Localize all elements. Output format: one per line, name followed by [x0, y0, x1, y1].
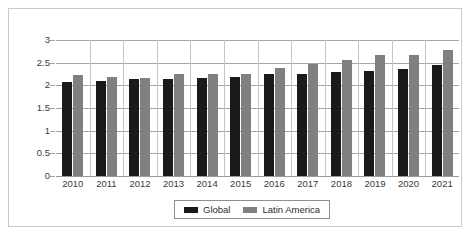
bar-latin-america-2015[interactable]: [241, 74, 251, 176]
x-tick-label-2012: 2012: [123, 179, 157, 189]
bar-global-2019[interactable]: [364, 71, 374, 176]
bar-group: [425, 40, 459, 176]
x-tick-label-2016: 2016: [257, 179, 291, 189]
y-axis-tick-labels: 00.511.522.53: [14, 40, 50, 176]
bar-latin-america-2018[interactable]: [342, 60, 352, 177]
bar-latin-america-2021[interactable]: [443, 50, 453, 176]
legend-entry-global[interactable]: Global: [184, 205, 230, 215]
gridline-0: [56, 176, 459, 177]
bar-latin-america-2014[interactable]: [208, 74, 218, 176]
bar-global-2018[interactable]: [331, 72, 341, 176]
y-tick-mark: [50, 40, 55, 41]
bar-global-2017[interactable]: [297, 74, 307, 176]
x-tick-label-2020: 2020: [392, 179, 426, 189]
bar-group: [123, 40, 157, 176]
y-tick-label: 1.5: [16, 103, 50, 113]
bar-global-2013[interactable]: [163, 79, 173, 176]
chart-figure: 00.511.522.53 20102011201220132014201520…: [0, 0, 471, 236]
bar-group: [157, 40, 191, 176]
bar-latin-america-2011[interactable]: [107, 77, 117, 176]
x-tick-label-2019: 2019: [358, 179, 392, 189]
bar-latin-america-2017[interactable]: [308, 64, 318, 176]
y-tick-label: 3: [16, 35, 50, 45]
x-tick-label-2021: 2021: [425, 179, 459, 189]
bar-global-2014[interactable]: [197, 78, 207, 176]
legend-swatch-icon: [184, 207, 198, 213]
bar-global-2016[interactable]: [264, 74, 274, 176]
x-tick-label-2015: 2015: [224, 179, 258, 189]
x-tick-label-2018: 2018: [325, 179, 359, 189]
bar-group: [358, 40, 392, 176]
bar-group: [291, 40, 325, 176]
x-axis-tick-labels: 2010201120122013201420152016201720182019…: [56, 179, 459, 189]
y-tick-label: 2: [16, 81, 50, 91]
x-tick-label-2010: 2010: [56, 179, 90, 189]
chart-frame: 00.511.522.53 20102011201220132014201520…: [8, 8, 462, 227]
bar-global-2015[interactable]: [230, 77, 240, 176]
legend-label: Global: [203, 205, 230, 215]
bar-group: [325, 40, 359, 176]
legend-swatch-icon: [243, 207, 257, 213]
bar-global-2021[interactable]: [432, 65, 442, 176]
bar-groups: [56, 40, 459, 176]
bar-group: [257, 40, 291, 176]
bar-latin-america-2016[interactable]: [275, 68, 285, 176]
y-tick-label: 1: [16, 126, 50, 136]
bar-latin-america-2020[interactable]: [409, 55, 419, 176]
bar-group: [56, 40, 90, 176]
chart-legend: GlobalLatin America: [174, 200, 330, 219]
bar-latin-america-2013[interactable]: [174, 74, 184, 176]
bar-latin-america-2012[interactable]: [140, 78, 150, 176]
bar-group: [392, 40, 426, 176]
bar-global-2012[interactable]: [129, 79, 139, 176]
bar-global-2010[interactable]: [62, 82, 72, 176]
y-tick-label: 2.5: [16, 58, 50, 68]
bar-latin-america-2019[interactable]: [375, 55, 385, 176]
y-tick-label: 0.5: [16, 149, 50, 159]
y-tick-label: 0: [16, 171, 50, 181]
x-tick-label-2011: 2011: [90, 179, 124, 189]
bar-group: [190, 40, 224, 176]
bar-global-2011[interactable]: [96, 81, 106, 176]
y-tick-mark: [50, 85, 55, 86]
legend-label: Latin America: [262, 205, 320, 215]
y-tick-mark: [50, 176, 55, 177]
y-tick-mark: [50, 131, 55, 132]
bar-global-2020[interactable]: [398, 69, 408, 176]
y-tick-mark: [50, 153, 55, 154]
bar-group: [224, 40, 258, 176]
legend-entry-latin-america[interactable]: Latin America: [243, 205, 320, 215]
y-tick-mark: [50, 108, 55, 109]
x-tick-label-2014: 2014: [190, 179, 224, 189]
x-tick-label-2013: 2013: [157, 179, 191, 189]
y-tick-mark: [50, 63, 55, 64]
bar-latin-america-2010[interactable]: [73, 75, 83, 176]
x-tick-label-2017: 2017: [291, 179, 325, 189]
bar-group: [90, 40, 124, 176]
